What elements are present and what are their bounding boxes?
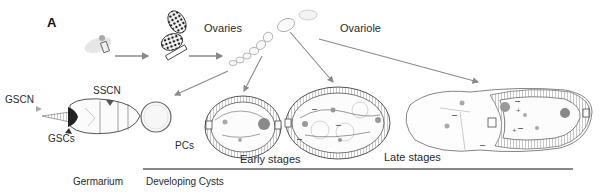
arrow-to-early-stage-2 xyxy=(290,32,333,82)
label-sscn: SSCN xyxy=(93,85,121,96)
ovaries-icon xyxy=(159,8,190,60)
svg-text:–: – xyxy=(312,104,317,114)
early-stage-cyst-1 xyxy=(205,96,281,158)
label-early-stages: Early stages xyxy=(240,153,301,165)
diagram-canvas: – – – – – – – + + xyxy=(0,0,603,195)
svg-text:–: – xyxy=(297,134,302,144)
label-developing-cysts: Developing Cysts xyxy=(146,176,224,187)
arrow-to-early-stage-1 xyxy=(244,56,262,91)
germarium-drawing xyxy=(42,99,171,134)
label-ovaries: Ovaries xyxy=(204,22,242,34)
label-pcs: PCs xyxy=(175,140,194,151)
svg-text:–: – xyxy=(336,120,341,130)
svg-text:+: + xyxy=(516,106,521,115)
early-stage-cyst-2: – – – xyxy=(285,87,390,159)
svg-text:–: – xyxy=(480,140,485,150)
label-ovariole: Ovariole xyxy=(340,22,381,34)
fly-icon xyxy=(82,34,113,57)
late-stage-cyst: – – – – + + xyxy=(406,88,592,151)
arrow-to-late-stage xyxy=(319,39,478,82)
ovariole-chain xyxy=(229,10,317,66)
gscn-marker-icon xyxy=(36,106,42,112)
svg-text:–: – xyxy=(515,96,520,106)
svg-text:+: + xyxy=(512,126,517,135)
label-late-stages: Late stages xyxy=(384,151,441,163)
svg-text:–: – xyxy=(452,110,457,120)
label-gscs: GSCs xyxy=(48,133,75,144)
svg-text:–: – xyxy=(518,123,523,133)
label-gscn: GSCN xyxy=(5,94,34,105)
arrow-to-germarium xyxy=(175,71,228,95)
label-germarium: Germarium xyxy=(73,176,123,187)
